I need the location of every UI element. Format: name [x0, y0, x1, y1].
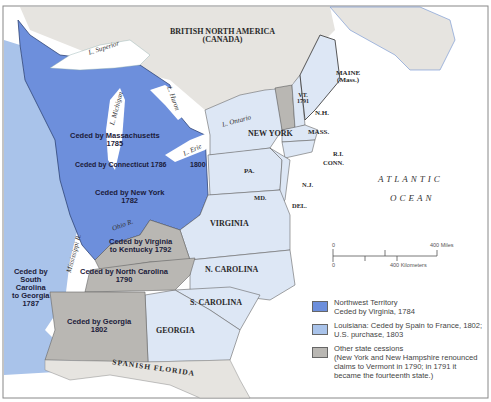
label-conn-1800: 1800	[190, 161, 206, 168]
label-connecticut: CONN.	[323, 160, 344, 167]
map-legend: Northwest TerritoryCeded by Virginia, 17…	[312, 298, 482, 385]
label-maine: MAINE(Mass.)	[336, 70, 360, 85]
legend-other: Other state cessions(New York and New Ha…	[312, 344, 482, 380]
label-new-hampshire: N.H.	[315, 110, 329, 117]
label-conn-cession: Ceded by Connecticut 1786	[75, 161, 166, 168]
label-georgia-cession: Ceded by Georgia1802	[67, 318, 131, 334]
label-ocean: OCEAN	[390, 194, 435, 203]
legend-swatch-northwest	[312, 301, 328, 312]
label-new-jersey: N.J.	[302, 182, 313, 189]
legend-northwest: Northwest TerritoryCeded by Virginia, 17…	[312, 298, 482, 316]
label-atlantic: ATLANTIC	[378, 175, 443, 184]
legend-louisiana: Louisiana: Ceded by Spain to France, 180…	[312, 321, 482, 339]
label-maryland: MD.	[254, 195, 266, 202]
label-rhode-island: R.I.	[333, 151, 343, 158]
label-vermont: VT.1791	[297, 92, 309, 105]
label-sc-cession: Ceded bySouthCarolinato Georgia1787	[12, 268, 50, 307]
label-pennsylvania: PA.	[244, 168, 255, 175]
label-virginia: VIRGINIA	[210, 220, 249, 228]
label-kentucky-cession: Ceded by Virginiato Kentucky 1792	[109, 238, 172, 254]
scale-zero-km: 0	[332, 262, 335, 268]
scale-miles: 400 Miles	[430, 242, 454, 248]
label-georgia: GEORGIA	[156, 327, 195, 335]
legend-swatch-other	[312, 347, 328, 358]
label-nc-cession: Ceded by North Carolina1790	[80, 268, 168, 284]
scale-km: 400 Kilometers	[390, 262, 427, 268]
label-new-york: NEW YORK	[248, 130, 293, 138]
label-south-carolina: S. CAROLINA	[190, 299, 242, 307]
label-ny-cession: Ceded by New York1782	[95, 189, 164, 205]
label-delaware: DEL.	[292, 203, 307, 210]
scale-zero-miles: 0	[332, 242, 335, 248]
label-north-carolina: N. CAROLINA	[205, 266, 258, 274]
label-mass-cession: Ceded by Massachusetts1785	[70, 132, 160, 148]
label-canada: BRITISH NORTH AMERICA(CANADA)	[170, 28, 275, 45]
legend-swatch-louisiana	[312, 324, 328, 335]
territorial-cessions-map: BRITISH NORTH AMERICA(CANADA) MAINE(Mass…	[0, 0, 491, 402]
label-massachusetts: MASS.	[308, 129, 329, 136]
